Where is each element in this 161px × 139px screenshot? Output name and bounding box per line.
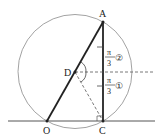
label-D: D (64, 67, 71, 78)
angle-arc-lower (81, 72, 86, 82)
right-angle-mark (97, 116, 102, 121)
angle1-mark: ① (115, 81, 123, 91)
dashed-DC (75, 72, 103, 121)
angle1-numerator: π (107, 76, 111, 85)
angle2-denominator: 3 (107, 59, 111, 68)
angle-arc-upper (81, 62, 86, 72)
label-A: A (99, 8, 107, 19)
point-O-dot (46, 120, 49, 123)
angle1-denominator: 3 (107, 87, 111, 96)
point-A-dot (102, 21, 105, 24)
point-D-dot (74, 71, 77, 74)
label-O: O (43, 125, 50, 136)
label-C: C (99, 125, 106, 136)
angle2-numerator: π (107, 48, 111, 57)
point-C-dot (102, 120, 105, 123)
angle2-mark: ② (115, 53, 123, 63)
geometry-diagram: A C O D π 3 ② π 3 ① (0, 0, 161, 139)
